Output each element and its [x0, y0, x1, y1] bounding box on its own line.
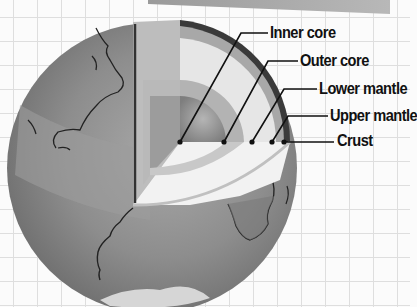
label-outer-core: Outer core: [300, 51, 369, 71]
label-upper-mantle: Upper mantle: [330, 106, 417, 126]
label-lower-mantle: Lower mantle: [319, 79, 407, 99]
label-inner-core: Inner core: [270, 23, 336, 43]
top-panel-edge: [148, 0, 390, 14]
label-crust: Crust: [337, 131, 373, 151]
